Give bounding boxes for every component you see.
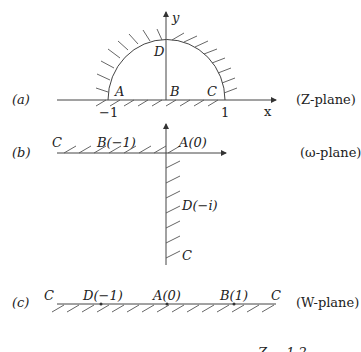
- point-d-label: D(−i): [181, 198, 218, 213]
- panel-b-tag: (b): [12, 145, 30, 160]
- point-c-right-label: C: [271, 288, 281, 303]
- point-d-label: D(−1): [82, 288, 123, 303]
- panel-a-tag: (a): [12, 92, 30, 107]
- panel-c-w-plane: (c) C D(−1) A(0) B(1) C (W-plane): [12, 288, 359, 312]
- point-c-left-label: C: [52, 135, 62, 150]
- point-a-label: A(0): [178, 135, 207, 150]
- cut-off-equation-fragment: Z − 1 2: [257, 345, 307, 352]
- tick-one: 1: [221, 105, 229, 120]
- omega-plane-label: (ω-plane): [300, 145, 361, 160]
- point-a-label: A(0): [152, 288, 181, 303]
- panel-c-tag: (c): [12, 295, 29, 310]
- point-b-label: B(−1): [96, 135, 136, 150]
- x-axis-label: x: [264, 104, 272, 119]
- point-b-label: B(1): [219, 288, 248, 303]
- imag-axis-hatching: [166, 161, 180, 258]
- point-c-bottom-label: C: [182, 248, 192, 263]
- conformal-mapping-diagram: (a) y x D A B C −1 1 (Z-plane): [0, 0, 361, 352]
- point-b-label: B: [169, 84, 180, 99]
- point-a-label: A: [114, 84, 124, 99]
- panel-a-z-plane: (a) y x D A B C −1 1 (Z-plane): [12, 10, 356, 120]
- panel-b-omega-plane: (b) C B(−1) A(0) D(−i) C (ω-plane): [12, 124, 361, 265]
- point-c-left-label: C: [44, 288, 54, 303]
- w-plane-label: (W-plane): [296, 295, 359, 310]
- point-c-label: C: [207, 84, 217, 99]
- tick-minus-one: −1: [99, 105, 118, 120]
- y-axis-label: y: [171, 10, 180, 25]
- real-line-hatching: [52, 305, 274, 312]
- z-plane-label: (Z-plane): [296, 92, 356, 107]
- point-d-label: D: [153, 44, 165, 59]
